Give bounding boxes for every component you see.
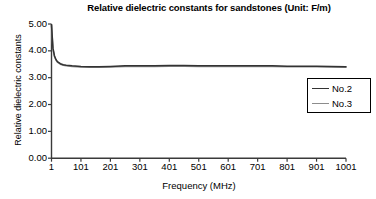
legend-swatch-1 — [312, 103, 329, 104]
series-line-no-2 — [52, 25, 347, 67]
chart-legend: No.2 No.3 — [307, 78, 371, 113]
legend-label-1: No.3 — [332, 98, 352, 109]
axis-lines — [48, 24, 346, 162]
legend-item-0: No.2 — [312, 81, 352, 96]
legend-swatch-0 — [312, 88, 329, 89]
series-line-no-3 — [52, 25, 347, 67]
legend-label-0: No.2 — [332, 83, 352, 94]
data-series-group — [52, 25, 347, 67]
chart-figure: Relative dielectric constants for sandst… — [0, 0, 376, 199]
legend-item-1: No.3 — [312, 96, 352, 111]
